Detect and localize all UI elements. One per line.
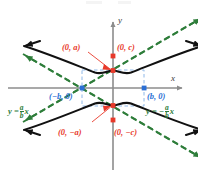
- upper-branch-arrow-left: [26, 41, 40, 46]
- hyperbola-figure: (0, a) (0, c) (0, −a) (0, −c) (−b, 0) (b…: [0, 0, 198, 176]
- upper-branch-arrow-right: [186, 41, 198, 46]
- conjugate-left-marker: [80, 86, 85, 91]
- vertex-bottom-label: (0, −a): [58, 128, 82, 137]
- asymptote-left-numerator: a: [20, 104, 24, 111]
- asymptote-right-fraction: ab: [165, 104, 169, 120]
- leader-vertex-top-head: [103, 64, 112, 70]
- asymptote-right-denominator: b: [165, 111, 169, 120]
- vertex-top-marker: [111, 68, 116, 73]
- conjugate-right-marker: [142, 86, 147, 91]
- asymptote-right-equation: y = −abx: [146, 104, 174, 120]
- vertex-bottom-marker: [111, 103, 116, 108]
- leader-vertex-bottom-head: [103, 106, 111, 112]
- lower-branch-arrow-right: [186, 130, 198, 135]
- conjugate-left-label: (−b, 0): [49, 92, 73, 101]
- conjugate-right-label: (b, 0): [147, 92, 165, 101]
- asymptote-right-variable: x: [170, 106, 174, 116]
- asymptote-right-numerator: a: [165, 104, 169, 111]
- asymptote-left-variable: x: [25, 106, 29, 116]
- leader-vertex-bottom: [92, 108, 110, 123]
- figure-canvas: [0, 0, 198, 176]
- cropped-equation-remnant: [86, 1, 131, 4]
- asymptote-left-denominator: b: [20, 111, 24, 120]
- vertex-top-label: (0, a): [62, 43, 80, 52]
- focus-top-marker: [111, 54, 116, 59]
- focus-top-label: (0, c): [117, 43, 135, 52]
- leader-lines: [88, 52, 111, 122]
- y-axis-label: y: [118, 16, 122, 25]
- focus-bottom-label: (0, −c): [114, 128, 137, 137]
- asymptote-right-head: y = −: [146, 106, 164, 116]
- focus-bottom-marker: [111, 118, 116, 123]
- asymptote-left-head: y =: [8, 106, 19, 116]
- lower-branch-arrow-left: [26, 130, 40, 135]
- asymptote-left-equation: y =abx: [8, 104, 29, 120]
- asymptote-left-fraction: ab: [20, 104, 24, 120]
- x-axis-label: x: [171, 74, 175, 83]
